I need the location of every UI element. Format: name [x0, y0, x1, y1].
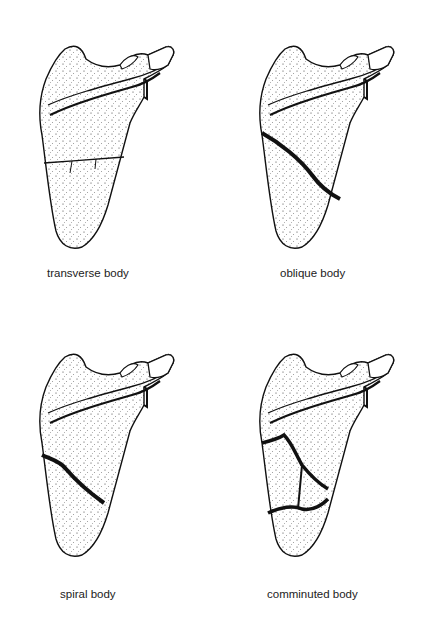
- caption-oblique: oblique body: [280, 267, 345, 279]
- panel-comminuted: [240, 343, 420, 563]
- scapula-comminuted-drawing: [240, 343, 420, 563]
- panel-oblique: [240, 35, 420, 255]
- scapula-spiral-drawing: [20, 343, 200, 563]
- panel-spiral: [20, 343, 200, 563]
- scapula-oblique-drawing: [240, 35, 420, 255]
- caption-spiral: spiral body: [60, 588, 116, 600]
- caption-transverse: transverse body: [47, 267, 129, 279]
- panel-transverse: [20, 35, 200, 255]
- caption-comminuted: comminuted body: [267, 588, 358, 600]
- scapula-transverse-drawing: [20, 35, 200, 255]
